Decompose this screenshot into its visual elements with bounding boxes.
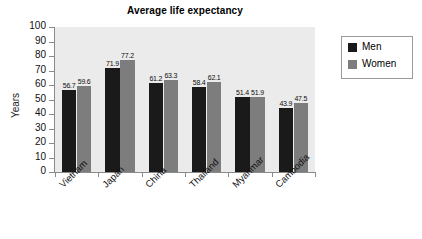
y-axis-tick-mark <box>49 114 54 115</box>
y-axis-tick: 100 <box>0 27 55 28</box>
y-axis-tick: 10 <box>0 158 55 159</box>
y-axis-tick-label: 100 <box>29 20 46 31</box>
y-axis-tick-mark <box>49 27 54 28</box>
y-axis-tick-label: 70 <box>35 64 46 75</box>
y-axis-tick-mark <box>49 129 54 130</box>
x-axis-tick-mark <box>142 173 143 177</box>
bar-value-label: 77.2 <box>117 52 138 59</box>
bar-value-label: 63.3 <box>161 72 182 79</box>
x-axis-tick-mark <box>272 173 273 177</box>
bar-men-japan <box>105 68 120 172</box>
chart-legend: Men Women <box>341 36 413 79</box>
x-axis-tick-mark <box>315 173 316 177</box>
y-axis-tick: 70 <box>0 71 55 72</box>
y-axis-tick: 0 <box>0 172 55 173</box>
y-axis-tick-label: 0 <box>40 165 46 176</box>
bar-value-label: 51.9 <box>247 89 268 96</box>
y-axis-tick-label: 80 <box>35 49 46 60</box>
y-axis-tick-label: 90 <box>35 35 46 46</box>
bar-group: 43.947.5 <box>279 27 309 172</box>
y-axis-tick-mark <box>49 158 54 159</box>
x-axis-tick-mark <box>185 173 186 177</box>
x-axis-tick-mark <box>98 173 99 177</box>
legend-label-women: Women <box>362 59 396 69</box>
legend-swatch-women-icon <box>348 60 357 69</box>
bar-men-thailand <box>192 87 207 172</box>
legend-item-women: Women <box>348 59 396 69</box>
y-axis-tick: 40 <box>0 114 55 115</box>
y-axis-tick: 80 <box>0 56 55 57</box>
y-axis-tick-mark <box>49 71 54 72</box>
y-axis-tick-label: 40 <box>35 107 46 118</box>
bar-group: 56.759.6 <box>62 27 92 172</box>
bar-value-label: 62.1 <box>204 74 225 81</box>
y-axis-tick-mark <box>49 42 54 43</box>
y-axis-tick-mark <box>49 85 54 86</box>
legend-label-men: Men <box>362 42 381 52</box>
bar-men-china <box>149 83 164 172</box>
y-axis-tick-mark <box>49 143 54 144</box>
legend-swatch-men-icon <box>348 43 357 52</box>
bar-value-label: 47.5 <box>291 95 312 102</box>
bar-women-japan <box>120 60 135 172</box>
bar-chart: Average life expectancy Years 0102030405… <box>0 0 422 239</box>
bar-men-vietnam <box>62 90 77 172</box>
bar-men-myanmar <box>235 97 250 172</box>
bar-group: 61.263.3 <box>149 27 179 172</box>
bar-group: 51.451.9 <box>235 27 265 172</box>
y-axis-tick-label: 30 <box>35 122 46 133</box>
y-axis-tick: 90 <box>0 42 55 43</box>
y-axis-tick: 20 <box>0 143 55 144</box>
y-axis-tick-label: 60 <box>35 78 46 89</box>
y-axis-tick-mark <box>49 172 54 173</box>
bar-group: 58.462.1 <box>192 27 222 172</box>
y-axis-tick: 30 <box>0 129 55 130</box>
bars-layer: 56.759.671.977.261.263.358.462.151.451.9… <box>55 27 315 172</box>
y-axis-tick-mark <box>49 100 54 101</box>
legend-item-men: Men <box>348 42 381 52</box>
bar-women-china <box>164 80 179 172</box>
y-axis-tick: 50 <box>0 100 55 101</box>
x-axis-tick-mark <box>228 173 229 177</box>
y-axis-tick-mark <box>49 56 54 57</box>
y-axis-tick-label: 10 <box>35 151 46 162</box>
bar-value-label: 59.6 <box>74 78 95 85</box>
y-axis-tick-label: 20 <box>35 136 46 147</box>
y-axis-tick: 60 <box>0 85 55 86</box>
x-axis-tick-mark <box>55 173 56 177</box>
y-axis-tick-label: 50 <box>35 93 46 104</box>
chart-title: Average life expectancy <box>60 5 310 16</box>
bar-group: 71.977.2 <box>105 27 135 172</box>
